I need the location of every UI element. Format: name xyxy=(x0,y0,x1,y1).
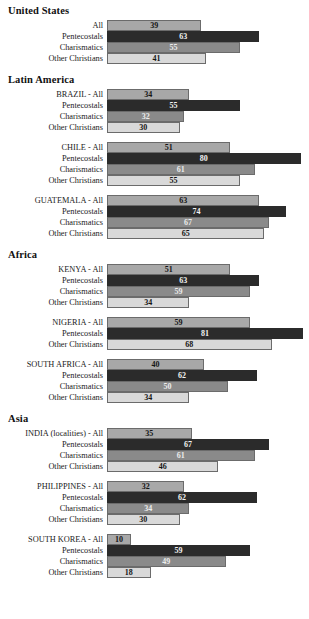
bar xyxy=(107,317,250,328)
bar-row: Pentecostals67 xyxy=(0,439,309,450)
bar-track: 10 xyxy=(107,534,309,545)
country-group: INDIA (localities) - All35Pentecostals67… xyxy=(0,428,309,472)
bar-row-label: Other Christians xyxy=(0,53,107,64)
bar xyxy=(107,392,189,403)
bar-row-label: Other Christians xyxy=(0,392,107,403)
bar-track: 63 xyxy=(107,195,309,206)
bar-row: Charismatics34 xyxy=(0,503,309,514)
bar-row-label: Charismatics xyxy=(0,42,107,53)
bar-row: NIGERIA - All59 xyxy=(0,317,309,328)
bar-track: 51 xyxy=(107,264,309,275)
bar-track: 63 xyxy=(107,31,309,42)
bar xyxy=(107,514,180,525)
bar-row: SOUTH KOREA - All10 xyxy=(0,534,309,545)
region-block: AfricaKENYA - All51Pentecostals63Charism… xyxy=(0,248,309,403)
bar-track: 30 xyxy=(107,122,309,133)
bar-track: 34 xyxy=(107,392,309,403)
bar-row: Other Christians34 xyxy=(0,297,309,308)
bar xyxy=(107,122,180,133)
bar-chart: United StatesAll39Pentecostals63Charisma… xyxy=(0,4,309,619)
bar-track: 59 xyxy=(107,545,309,556)
bar-row-label: GUATEMALA - All xyxy=(0,195,107,206)
bar-track: 41 xyxy=(107,53,309,64)
country-group: SOUTH KOREA - All10Pentecostals59Charism… xyxy=(0,534,309,578)
bar-row-label: Charismatics xyxy=(0,381,107,392)
bar xyxy=(107,206,286,217)
bar-row: PHILIPPINES - All32 xyxy=(0,481,309,492)
bar-track: 65 xyxy=(107,228,309,239)
bar xyxy=(107,534,131,545)
bar-row: Other Christians68 xyxy=(0,339,309,350)
bar-row: Other Christians65 xyxy=(0,228,309,239)
bar-track: 68 xyxy=(107,339,309,350)
bar xyxy=(107,297,189,308)
region-block: AsiaINDIA (localities) - All35Pentecosta… xyxy=(0,412,309,578)
country-group: GUATEMALA - All63Pentecostals74Charismat… xyxy=(0,195,309,239)
region-block: United StatesAll39Pentecostals63Charisma… xyxy=(0,4,309,64)
bar-row-label: Pentecostals xyxy=(0,370,107,381)
region-title: Latin America xyxy=(0,73,309,87)
bar-row-label: Charismatics xyxy=(0,164,107,175)
bar-row-label: BRAZIL - All xyxy=(0,89,107,100)
bar-row-label: Charismatics xyxy=(0,217,107,228)
bar-row-label: Pentecostals xyxy=(0,328,107,339)
bar-row: Charismatics55 xyxy=(0,42,309,53)
bar-row: INDIA (localities) - All35 xyxy=(0,428,309,439)
bar-row: Other Christians55 xyxy=(0,175,309,186)
bar-row: Charismatics61 xyxy=(0,450,309,461)
bar-row-label: KENYA - All xyxy=(0,264,107,275)
bar-row-label: Pentecostals xyxy=(0,545,107,556)
bar xyxy=(107,42,240,53)
bar xyxy=(107,286,250,297)
bar-track: 51 xyxy=(107,142,309,153)
bar xyxy=(107,142,230,153)
bar xyxy=(107,328,303,339)
bar-track: 50 xyxy=(107,381,309,392)
bar-row-label: SOUTH AFRICA - All xyxy=(0,359,107,370)
bar-row-label: Other Christians xyxy=(0,567,107,578)
bar-row-label: Charismatics xyxy=(0,286,107,297)
bar-row-label: SOUTH KOREA - All xyxy=(0,534,107,545)
bar-row-label: Charismatics xyxy=(0,111,107,122)
bar-row-label: Other Christians xyxy=(0,228,107,239)
bar-row-label: Pentecostals xyxy=(0,492,107,503)
bar xyxy=(107,359,204,370)
bar xyxy=(107,53,206,64)
country-group: BRAZIL - All34Pentecostals55Charismatics… xyxy=(0,89,309,133)
bar xyxy=(107,20,201,31)
bar-row-label: Other Christians xyxy=(0,297,107,308)
bar xyxy=(107,492,257,503)
country-group: SOUTH AFRICA - All40Pentecostals62Charis… xyxy=(0,359,309,403)
bar-row: Other Christians18 xyxy=(0,567,309,578)
bar-row: Other Christians30 xyxy=(0,122,309,133)
bar xyxy=(107,428,192,439)
bar-row-label: Other Christians xyxy=(0,514,107,525)
bar-track: 46 xyxy=(107,461,309,472)
bar-row-label: Other Christians xyxy=(0,461,107,472)
bar-row: Pentecostals80 xyxy=(0,153,309,164)
country-group: PHILIPPINES - All32Pentecostals62Charism… xyxy=(0,481,309,525)
bar xyxy=(107,164,255,175)
bar-row-label: Other Christians xyxy=(0,175,107,186)
bar-row: CHILE - All51 xyxy=(0,142,309,153)
bar-track: 67 xyxy=(107,439,309,450)
bar-row: Other Christians41 xyxy=(0,53,309,64)
bar-row-label: Other Christians xyxy=(0,122,107,133)
region-block: Latin AmericaBRAZIL - All34Pentecostals5… xyxy=(0,73,309,239)
bar-track: 61 xyxy=(107,450,309,461)
bar xyxy=(107,339,272,350)
bar-track: 39 xyxy=(107,20,309,31)
bar-row: Pentecostals63 xyxy=(0,31,309,42)
country-group: All39Pentecostals63Charismatics55Other C… xyxy=(0,20,309,64)
bar xyxy=(107,111,184,122)
bar-row-label: PHILIPPINES - All xyxy=(0,481,107,492)
bar xyxy=(107,381,228,392)
bar-track: 34 xyxy=(107,503,309,514)
bar-track: 32 xyxy=(107,481,309,492)
bar xyxy=(107,567,151,578)
bar-row: Other Christians34 xyxy=(0,392,309,403)
bar-track: 81 xyxy=(107,328,309,339)
bar-row: GUATEMALA - All63 xyxy=(0,195,309,206)
bar xyxy=(107,264,230,275)
bar-row: Charismatics59 xyxy=(0,286,309,297)
